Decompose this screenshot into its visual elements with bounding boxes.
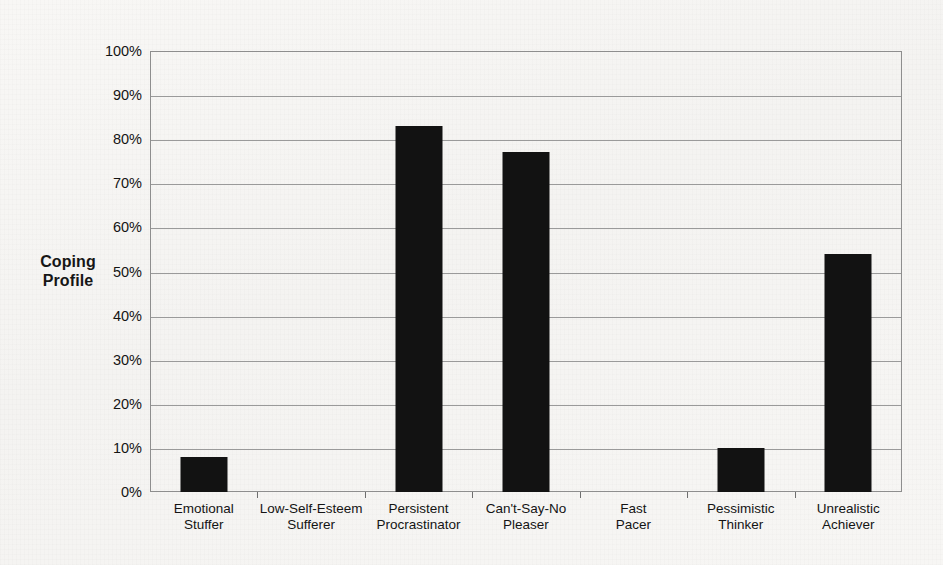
x-axis-category-label-line: Pessimistic: [687, 501, 794, 517]
x-axis-category-label: PessimisticThinker: [687, 501, 794, 533]
x-axis-category-label: EmotionalStuffer: [150, 501, 257, 533]
x-axis-category-label-line: Can't-Say-No: [472, 501, 579, 517]
x-axis-category-label-line: Achiever: [795, 517, 902, 533]
bar-slot: [257, 51, 364, 492]
bar-slot: [150, 51, 257, 492]
x-axis-category-label: Can't-Say-NoPleaser: [472, 501, 579, 533]
y-axis-tick-label: 40%: [80, 309, 142, 324]
bar-chart: Coping Profile 0%10%20%30%40%50%60%70%80…: [0, 0, 943, 565]
x-axis-category-label: FastPacer: [580, 501, 687, 533]
bar[interactable]: [717, 448, 764, 492]
x-axis-tick: [580, 492, 581, 498]
y-axis-tick-label: 70%: [80, 176, 142, 191]
x-axis-tick: [687, 492, 688, 498]
x-axis-category-label: UnrealisticAchiever: [795, 501, 902, 533]
bar-slot: [795, 51, 902, 492]
y-axis-tick-label: 60%: [80, 220, 142, 235]
y-axis-tick-label: 10%: [80, 441, 142, 456]
bar-slot: [687, 51, 794, 492]
x-axis-category-label-line: Pacer: [580, 517, 687, 533]
bar-slot: [365, 51, 472, 492]
x-axis-category-label-line: Sufferer: [257, 517, 364, 533]
bar-slot: [580, 51, 687, 492]
bar[interactable]: [825, 254, 872, 492]
y-axis-tick-labels: 0%10%20%30%40%50%60%70%80%90%100%: [78, 0, 142, 565]
x-axis-category-label: Low-Self-EsteemSufferer: [257, 501, 364, 533]
bar[interactable]: [502, 152, 549, 492]
bars-layer: [150, 51, 902, 492]
x-axis-category-label-line: Thinker: [687, 517, 794, 533]
x-axis-category-label-line: Emotional: [150, 501, 257, 517]
y-axis-tick-label: 90%: [80, 88, 142, 103]
bar[interactable]: [395, 126, 442, 492]
bar-slot: [472, 51, 579, 492]
y-axis-tick-label: 20%: [80, 397, 142, 412]
x-axis-category-label: PersistentProcrastinator: [365, 501, 472, 533]
x-axis-tick: [795, 492, 796, 498]
x-axis-tick: [472, 492, 473, 498]
y-axis-tick-label: 80%: [80, 132, 142, 147]
x-axis-category-label-line: Fast: [580, 501, 687, 517]
bar[interactable]: [180, 457, 227, 492]
x-axis-category-label-line: Low-Self-Esteem: [257, 501, 364, 517]
x-axis-category-label-line: Pleaser: [472, 517, 579, 533]
x-axis-category-label-line: Stuffer: [150, 517, 257, 533]
x-axis-category-label-line: Unrealistic: [795, 501, 902, 517]
x-axis-tick: [365, 492, 366, 498]
x-axis-category-label-line: Procrastinator: [365, 517, 472, 533]
y-axis-tick-label: 30%: [80, 353, 142, 368]
x-axis: EmotionalStufferLow-Self-EsteemSuffererP…: [150, 492, 902, 552]
x-axis-tick: [257, 492, 258, 498]
x-axis-category-label-line: Persistent: [365, 501, 472, 517]
y-axis-tick-label: 50%: [80, 265, 142, 280]
y-axis-tick-label: 0%: [80, 485, 142, 500]
y-axis-tick-label: 100%: [80, 44, 142, 59]
